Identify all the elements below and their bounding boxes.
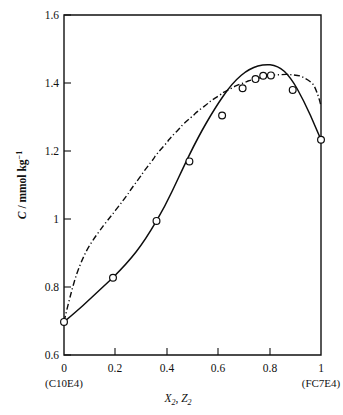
x-tick-label: 0 (61, 362, 67, 374)
data-point-marker (110, 274, 117, 281)
x-axis-ticks (115, 348, 270, 355)
y-tick-label: 0.8 (45, 281, 60, 293)
x-axis-title: X2, Z2 (163, 392, 191, 407)
chart-svg: 1.6 1.4 1.2 1 0.8 0.6 0 0.2 0.4 0.6 0.8 … (0, 0, 343, 415)
series-calculated (64, 74, 321, 322)
x-axis-right-endpoint-label: (FC7E4) (302, 377, 341, 390)
data-point-marker (219, 112, 226, 119)
data-point-marker (239, 85, 246, 92)
x-tick-label: 1 (318, 362, 324, 374)
x-tick-label: 0.6 (211, 362, 226, 374)
x-tick-label: 0.8 (263, 362, 278, 374)
svg-text:X2, Z2: X2, Z2 (163, 392, 191, 407)
y-axis-title-exponent: −1 (15, 151, 24, 160)
y-axis-title-units: / mmol kg (16, 159, 29, 211)
x-axis-title-z-sub: 2 (188, 398, 192, 407)
y-tick-label: 0.6 (45, 349, 60, 361)
data-point-marker (153, 218, 160, 225)
x-tick-label: 0.2 (108, 362, 123, 374)
x-axis-endpoint-labels: (C10E4) (FC7E4) (45, 377, 341, 390)
dash-dot-curve (64, 74, 321, 322)
y-axis-title: C / mmol kg−1 (15, 151, 29, 219)
data-point-marker (289, 87, 296, 94)
x-tick-labels: 0 0.2 0.4 0.6 0.8 1 (61, 362, 324, 374)
data-point-marker (186, 158, 193, 165)
data-point-marker (260, 72, 267, 79)
plot-frame (64, 15, 321, 355)
data-point-marker (318, 136, 325, 143)
x-tick-label: 0.4 (160, 362, 175, 374)
y-tick-label: 1 (53, 213, 59, 225)
data-point-markers (61, 72, 325, 325)
solid-curve (64, 65, 321, 322)
y-tick-labels: 1.6 1.4 1.2 1 0.8 0.6 (45, 9, 60, 361)
series-experimental (64, 65, 321, 322)
y-tick-label: 1.2 (45, 145, 60, 157)
data-point-marker (61, 319, 68, 326)
y-tick-label: 1.6 (45, 9, 60, 21)
chart-figure: 1.6 1.4 1.2 1 0.8 0.6 0 0.2 0.4 0.6 0.8 … (0, 0, 343, 415)
y-tick-label: 1.4 (45, 77, 60, 89)
x-axis-left-endpoint-label: (C10E4) (45, 377, 83, 390)
y-axis-ticks (64, 15, 71, 355)
data-point-marker (252, 76, 259, 83)
data-point-marker (268, 72, 275, 79)
svg-text:C / mmol kg−1: C / mmol kg−1 (15, 151, 29, 219)
